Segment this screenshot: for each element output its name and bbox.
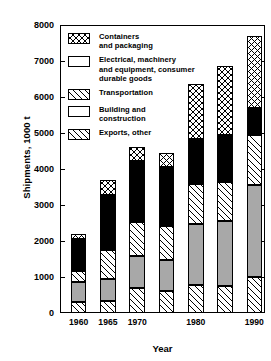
- chart-figure: Shipments, 1000 t Year 01000200030004000…: [0, 0, 271, 361]
- legend: Containersand packagingElectrical, machi…: [68, 32, 218, 145]
- bar-segment: [188, 224, 204, 285]
- legend-swatch-icon: [68, 56, 90, 67]
- legend-swatch-icon: [68, 33, 90, 44]
- legend-item: Transportation: [68, 88, 218, 100]
- bar-segment: [247, 277, 263, 313]
- bar-segment: [247, 108, 263, 135]
- bar-segment: [159, 153, 175, 167]
- y-axis-tick-mark: [60, 241, 65, 242]
- bar-segment: [217, 182, 233, 222]
- bar-segment: [100, 301, 116, 313]
- bar-segment: [217, 221, 233, 286]
- bar-segment: [129, 256, 145, 288]
- x-axis-tick-label: 1965: [98, 317, 117, 327]
- legend-label-line: Exports, other: [99, 128, 151, 137]
- legend-item-label: Electrical, machineryand equipment, cons…: [99, 55, 195, 83]
- bar-segment: [159, 226, 175, 261]
- bar-segment: [71, 234, 87, 239]
- y-axis-tick-mark: [60, 277, 65, 278]
- bar-segment: [129, 161, 145, 222]
- bar-segment: [159, 260, 175, 290]
- bar-segment: [159, 291, 175, 313]
- legend-label-line: Transportation: [99, 88, 153, 97]
- y-axis-tick-mark: [60, 169, 65, 170]
- legend-item-label: Building andconstruction: [99, 105, 146, 123]
- y-axis-tick-label: 6000: [8, 92, 60, 102]
- legend-label-line: and equipment, consumer: [99, 65, 195, 74]
- legend-item-label: Transportation: [99, 88, 153, 97]
- legend-label-line: Building and: [99, 105, 146, 114]
- x-axis-tick-label: 1990: [245, 317, 264, 327]
- legend-swatch-icon: [68, 89, 90, 100]
- bar-segment: [247, 185, 263, 277]
- y-axis-tick-mark: [60, 25, 65, 26]
- bar-segment: [129, 222, 145, 256]
- legend-label-line: Containers: [99, 32, 153, 41]
- bar-segment: [100, 195, 116, 250]
- y-axis-tick-label: 4000: [8, 164, 60, 174]
- x-axis-tick-label: 1960: [69, 317, 88, 327]
- bar-1985: [217, 25, 233, 313]
- legend-item: Electrical, machineryand equipment, cons…: [68, 55, 218, 83]
- y-axis-tick-mark: [60, 97, 65, 98]
- bar-segment: [129, 288, 145, 313]
- y-axis-tick-label: 1000: [8, 272, 60, 282]
- y-axis-tick-label: 2000: [8, 236, 60, 246]
- legend-item-label: Exports, other: [99, 128, 151, 137]
- bar-1990: [247, 25, 263, 313]
- legend-item-label: Containersand packaging: [99, 32, 153, 50]
- legend-label-line: construction: [99, 114, 146, 123]
- bar-segment: [188, 285, 204, 313]
- y-axis-tick-label: 7000: [8, 56, 60, 66]
- bar-segment: [129, 147, 145, 161]
- bar-segment: [100, 279, 116, 301]
- bar-segment: [71, 239, 87, 271]
- x-axis-tick-label: 1980: [186, 317, 205, 327]
- y-axis-tick-label: 5000: [8, 128, 60, 138]
- x-axis-tick-label: 1970: [128, 317, 147, 327]
- bar-segment: [247, 135, 263, 185]
- bar-segment: [100, 250, 116, 279]
- bar-segment: [217, 286, 233, 313]
- bar-segment: [188, 139, 204, 184]
- bar-segment: [247, 36, 263, 108]
- x-axis-title: Year: [60, 343, 265, 354]
- bar-segment: [71, 302, 87, 313]
- bar-segment: [188, 184, 204, 224]
- y-axis-tick-label: 0: [8, 308, 60, 318]
- bar-segment: [159, 167, 175, 226]
- legend-item: Building andconstruction: [68, 105, 218, 123]
- y-axis-tick-mark: [60, 133, 65, 134]
- bar-segment: [71, 282, 87, 302]
- y-axis-tick-label: 8000: [8, 20, 60, 30]
- bar-segment: [217, 66, 233, 134]
- legend-item: Containersand packaging: [68, 32, 218, 50]
- y-axis-tick-mark: [60, 205, 65, 206]
- bar-segment: [217, 135, 233, 182]
- y-axis-tick-label: 3000: [8, 200, 60, 210]
- legend-label-line: and packaging: [99, 41, 153, 50]
- legend-item: Exports, other: [68, 128, 218, 140]
- legend-swatch-icon: [68, 129, 90, 140]
- legend-label-line: durable goods: [99, 74, 195, 83]
- bar-segment: [71, 271, 87, 282]
- legend-swatch-icon: [68, 106, 90, 117]
- y-axis-tick-mark: [60, 61, 65, 62]
- legend-label-line: Electrical, machinery: [99, 55, 195, 64]
- bar-segment: [100, 180, 116, 195]
- y-axis-tick-mark: [60, 312, 65, 313]
